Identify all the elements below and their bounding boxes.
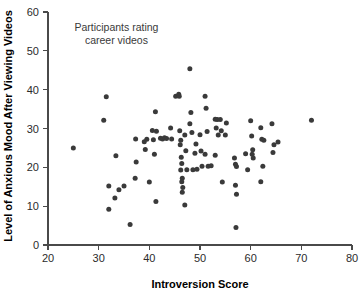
x-tick-label: 80 — [346, 252, 358, 264]
scatter-plot-figure: 203040506070800102030405060 Participants… — [0, 0, 364, 306]
data-point — [276, 140, 281, 145]
data-point — [178, 138, 183, 143]
y-tick-label: 50 — [27, 45, 39, 57]
data-point — [214, 126, 219, 131]
data-point — [233, 225, 238, 230]
data-point — [106, 207, 111, 212]
data-point — [194, 167, 199, 172]
data-point — [184, 167, 189, 172]
data-point — [234, 192, 239, 197]
data-point — [189, 130, 194, 135]
x-tick-label: 70 — [295, 252, 307, 264]
data-point — [180, 185, 185, 190]
data-point — [193, 142, 198, 147]
data-point — [177, 128, 182, 133]
data-point — [249, 133, 254, 138]
data-point — [128, 222, 133, 227]
data-point — [269, 121, 274, 126]
y-tick-label: 30 — [27, 123, 39, 135]
data-point — [200, 164, 205, 169]
data-point — [234, 164, 239, 169]
data-point — [71, 145, 76, 150]
data-point — [188, 110, 193, 115]
data-point — [168, 126, 173, 131]
y-tick-label: 60 — [27, 6, 39, 18]
axis-ticks — [43, 12, 352, 250]
data-point — [243, 151, 248, 156]
data-point — [270, 150, 275, 155]
y-tick-label: 40 — [27, 84, 39, 96]
data-point — [133, 176, 138, 181]
x-tick-label: 50 — [194, 252, 206, 264]
data-point — [187, 66, 192, 71]
data-point — [233, 183, 238, 188]
data-point — [204, 106, 209, 111]
data-point — [182, 133, 187, 138]
data-point — [309, 118, 314, 123]
data-point — [203, 94, 208, 99]
data-point — [199, 149, 204, 154]
annotation-line-1: Participants rating — [74, 21, 158, 33]
data-point — [179, 155, 184, 160]
data-point — [198, 132, 203, 137]
data-point — [106, 183, 111, 188]
data-point — [133, 136, 138, 141]
data-point — [178, 142, 183, 147]
y-tick-label: 20 — [27, 161, 39, 173]
data-point — [218, 117, 223, 122]
y-axis-title: Level of Anxious Mood After Viewing Vide… — [2, 10, 14, 242]
data-point — [153, 109, 158, 114]
data-point — [213, 153, 218, 158]
plot-annotation: Participants ratingcareer videos — [74, 21, 158, 46]
annotation-line-2: career videos — [85, 34, 148, 46]
x-axis-title: Introversion Score — [151, 278, 248, 290]
axis-tick-labels: 203040506070800102030405060 — [27, 6, 358, 264]
plot-canvas: 203040506070800102030405060 Participants… — [0, 0, 364, 306]
axes — [48, 12, 352, 245]
data-point — [232, 156, 237, 161]
data-point — [248, 118, 253, 123]
data-point — [164, 136, 169, 141]
data-point — [122, 183, 127, 188]
data-point — [220, 180, 225, 185]
data-point — [154, 129, 159, 134]
data-point — [183, 148, 188, 153]
data-point — [180, 190, 185, 195]
data-point — [153, 199, 158, 204]
data-point — [179, 179, 184, 184]
data-point — [251, 156, 256, 161]
data-point — [152, 152, 157, 157]
data-point — [209, 163, 214, 168]
data-point — [258, 179, 263, 184]
data-point — [258, 125, 263, 130]
data-point — [250, 147, 255, 152]
data-point — [224, 121, 229, 126]
x-tick-label: 30 — [93, 252, 105, 264]
y-tick-label: 10 — [27, 200, 39, 212]
x-tick-label: 40 — [143, 252, 155, 264]
data-point — [116, 187, 121, 192]
data-point — [219, 128, 224, 133]
data-point — [104, 94, 109, 99]
data-point — [101, 118, 106, 123]
y-tick-label: 0 — [33, 239, 39, 251]
data-point — [187, 121, 192, 126]
data-point — [169, 136, 174, 141]
data-points — [71, 66, 314, 230]
data-point — [182, 203, 187, 208]
data-point — [205, 129, 210, 134]
data-point — [223, 133, 228, 138]
data-point — [216, 133, 221, 138]
data-point — [178, 168, 183, 173]
data-point — [203, 152, 208, 157]
data-point — [113, 153, 118, 158]
data-point — [245, 167, 250, 172]
data-point — [261, 138, 266, 143]
data-point — [144, 137, 149, 142]
data-point — [177, 94, 182, 99]
data-point — [134, 159, 139, 164]
data-point — [192, 151, 197, 156]
data-point — [147, 180, 152, 185]
data-point — [143, 147, 148, 152]
data-point — [151, 137, 156, 142]
